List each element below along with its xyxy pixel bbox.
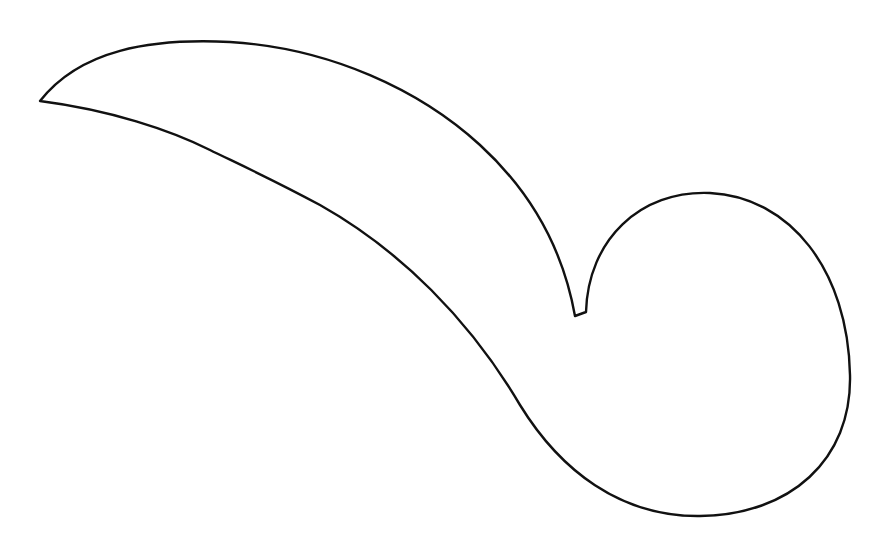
drawing-canvas	[0, 0, 878, 544]
background	[0, 0, 878, 544]
